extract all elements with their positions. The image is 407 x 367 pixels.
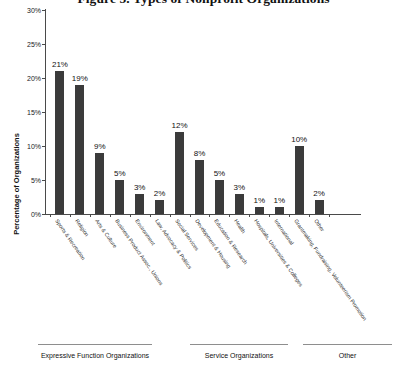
x-category-label: Development & Housing	[194, 218, 232, 269]
y-tick-label: 30%	[1, 7, 45, 14]
bar	[255, 207, 264, 214]
bar	[75, 85, 84, 214]
y-tick-label: 15%	[1, 109, 45, 116]
bar-column: 21%	[55, 10, 64, 214]
bar	[235, 194, 244, 214]
y-tick-label: 20%	[1, 75, 45, 82]
chart-title: Figure 5. Types of Nonprofit Organizatio…	[0, 0, 407, 7]
x-tick-mark	[269, 214, 270, 217]
bar	[135, 194, 144, 214]
bar-value-label: 5%	[214, 169, 226, 178]
bar-column: 10%	[295, 10, 304, 214]
group-bracket-label: Expressive Function Organizations	[41, 352, 149, 359]
bar-column: 5%	[215, 10, 224, 214]
bar	[115, 180, 124, 214]
bar-column: 19%	[75, 10, 84, 214]
bar-column: 1%	[275, 10, 284, 214]
x-tick-mark	[150, 214, 151, 217]
y-tick-label: 5%	[1, 177, 45, 184]
x-category-label: Education & Research	[214, 218, 250, 265]
x-category-label: Law, Advocacy & Politics	[154, 218, 193, 270]
bar	[295, 146, 304, 214]
x-tick-mark	[249, 214, 250, 217]
plot-area: 0%5%10%15%20%25%30% 21%19%9%5%3%2%12%8%5…	[45, 10, 360, 214]
y-tick-label: 25%	[1, 41, 45, 48]
bar	[275, 207, 284, 214]
y-tick-label: 0%	[1, 211, 45, 218]
x-tick-mark	[209, 214, 210, 217]
y-tick-mark	[42, 44, 45, 45]
bar-value-label: 3%	[134, 183, 146, 192]
y-tick-mark	[42, 180, 45, 181]
bar-value-label: 10%	[291, 135, 307, 144]
bar	[155, 200, 164, 214]
group-bracket-line	[38, 344, 152, 345]
x-axis-line	[45, 214, 361, 215]
x-tick-mark	[70, 214, 71, 217]
y-tick-mark	[42, 214, 45, 215]
bar-column: 3%	[235, 10, 244, 214]
x-category-label: Health	[233, 218, 247, 234]
bar-value-label: 9%	[94, 142, 106, 151]
x-tick-mark	[170, 214, 171, 217]
bar-column: 3%	[135, 10, 144, 214]
y-tick-mark	[42, 10, 45, 11]
bar-value-label: 2%	[313, 189, 325, 198]
x-category-label: International	[273, 218, 295, 246]
bar	[175, 132, 184, 214]
x-tick-mark	[110, 214, 111, 217]
group-bracket-label: Other	[339, 352, 357, 359]
bar-column: 9%	[95, 10, 104, 214]
bar-value-label: 1%	[254, 196, 266, 205]
x-tick-mark	[90, 214, 91, 217]
group-bracket-line	[190, 344, 288, 345]
y-tick-mark	[42, 78, 45, 79]
y-tick-mark	[42, 146, 45, 147]
bar-column: 2%	[315, 10, 324, 214]
x-tick-mark	[289, 214, 290, 217]
bar	[215, 180, 224, 214]
x-tick-mark	[190, 214, 191, 217]
bar	[195, 160, 204, 214]
group-bracket-line	[303, 344, 392, 345]
bar-column: 5%	[115, 10, 124, 214]
bar	[55, 71, 64, 214]
bar-value-label: 19%	[72, 74, 88, 83]
bar	[315, 200, 324, 214]
bar-column: 2%	[155, 10, 164, 214]
group-bracket-label: Service Organizations	[205, 352, 273, 359]
chart-figure: Figure 5. Types of Nonprofit Organizatio…	[0, 0, 407, 367]
y-tick-mark	[42, 112, 45, 113]
bar-value-label: 5%	[114, 169, 126, 178]
y-tick-label: 10%	[1, 143, 45, 150]
x-category-label: Religion	[74, 218, 90, 237]
bar-value-label: 21%	[52, 60, 68, 69]
bar-value-label: 2%	[154, 189, 166, 198]
bar-value-label: 8%	[194, 149, 206, 158]
x-category-label: Grantmaking, Fundraising, Volunteerism P…	[293, 218, 368, 322]
x-tick-mark	[50, 214, 51, 217]
bar-value-label: 12%	[172, 121, 188, 130]
x-category-label: Other	[313, 218, 326, 232]
bar-value-label: 1%	[273, 196, 285, 205]
x-category-label: Environment	[134, 218, 156, 246]
bar-column: 12%	[175, 10, 184, 214]
bar	[95, 153, 104, 214]
x-tick-mark	[329, 214, 330, 217]
bar-column: 1%	[255, 10, 264, 214]
x-tick-mark	[309, 214, 310, 217]
x-tick-mark	[130, 214, 131, 217]
x-tick-mark	[229, 214, 230, 217]
bar-column: 8%	[195, 10, 204, 214]
bar-value-label: 3%	[234, 183, 246, 192]
